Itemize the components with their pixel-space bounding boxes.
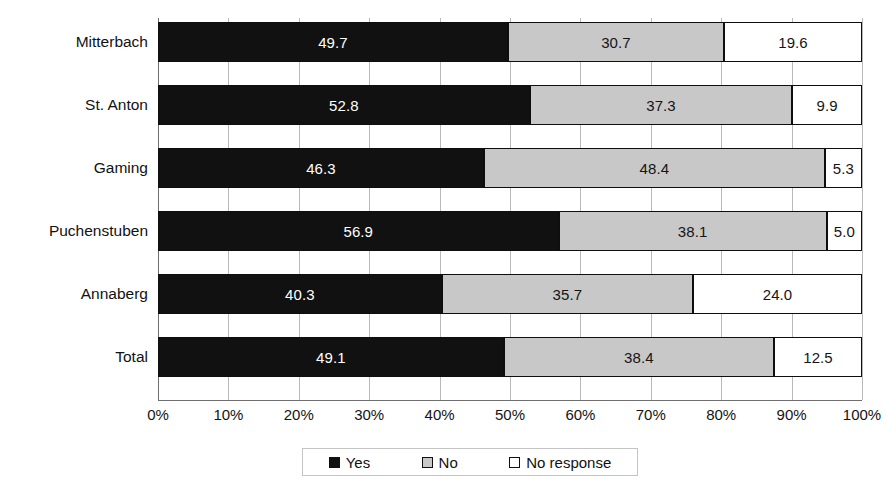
x-tick-label: 10%	[213, 406, 243, 423]
bar-value-label: 30.7	[601, 34, 631, 51]
legend-label: No response	[526, 454, 611, 471]
bar-segment-no: 48.4	[484, 148, 825, 188]
legend-swatch-icon	[422, 457, 433, 468]
legend-label: Yes	[346, 454, 370, 471]
bar-segment-no-response: 5.3	[825, 148, 862, 188]
legend-swatch-icon	[329, 457, 340, 468]
bar-value-label: 19.6	[778, 34, 808, 51]
legend-label: No	[439, 454, 458, 471]
bar-row: 46.348.45.3	[158, 148, 862, 188]
bar-segment-yes: 49.1	[158, 337, 504, 377]
bar-segment-no-response: 19.6	[724, 22, 862, 62]
bar-segment-yes: 46.3	[158, 148, 484, 188]
bar-value-label: 38.4	[624, 349, 654, 366]
plot-area: 49.730.719.652.837.39.946.348.45.356.938…	[158, 18, 862, 400]
bar-segment-yes: 52.8	[158, 85, 530, 125]
bar-segment-no-response: 24.0	[693, 274, 862, 314]
bar-segment-no: 37.3	[530, 85, 793, 125]
x-tick-label: 50%	[495, 406, 525, 423]
x-tick-label: 60%	[565, 406, 595, 423]
x-tick-label: 90%	[777, 406, 807, 423]
legend-swatch-icon	[509, 457, 520, 468]
bar-value-label: 37.3	[646, 97, 676, 114]
category-label: Gaming	[0, 148, 148, 188]
bar-value-label: 24.0	[763, 286, 793, 303]
bar-value-label: 38.1	[678, 223, 708, 240]
bar-segment-no-response: 12.5	[774, 337, 862, 377]
bar-value-label: 40.3	[285, 286, 315, 303]
chart-legend: YesNoNo response	[302, 448, 638, 476]
category-label: St. Anton	[0, 85, 148, 125]
bar-row: 49.138.412.5	[158, 337, 862, 377]
bar-segment-no: 30.7	[508, 22, 724, 62]
bar-value-label: 56.9	[343, 223, 373, 240]
x-axis-line	[158, 400, 862, 401]
stacked-bar-chart: MitterbachSt. AntonGamingPuchenstubenAnn…	[0, 0, 886, 500]
bar-segment-no: 38.1	[559, 211, 827, 251]
x-tick-label: 0%	[147, 406, 169, 423]
bar-value-label: 5.3	[833, 160, 854, 177]
bar-value-label: 9.9	[817, 97, 838, 114]
bar-value-label: 12.5	[803, 349, 833, 366]
bar-segment-yes: 56.9	[158, 211, 559, 251]
category-axis: MitterbachSt. AntonGamingPuchenstubenAnn…	[0, 18, 148, 400]
bar-value-label: 46.3	[306, 160, 336, 177]
bar-row: 52.837.39.9	[158, 85, 862, 125]
bar-value-label: 48.4	[640, 160, 670, 177]
bar-row: 40.335.724.0	[158, 274, 862, 314]
bar-segment-no-response: 9.9	[792, 85, 862, 125]
bar-value-label: 49.7	[318, 34, 348, 51]
bar-segment-yes: 49.7	[158, 22, 508, 62]
bar-value-label: 52.8	[329, 97, 359, 114]
category-label: Puchenstuben	[0, 211, 148, 251]
bar-segment-no-response: 5.0	[827, 211, 862, 251]
category-label: Total	[0, 337, 148, 377]
bar-segment-yes: 40.3	[158, 274, 442, 314]
legend-item-no-response[interactable]: No response	[509, 454, 611, 471]
category-label: Annaberg	[0, 274, 148, 314]
bar-value-label: 49.1	[316, 349, 346, 366]
x-tick-label: 80%	[706, 406, 736, 423]
bar-segment-no: 38.4	[504, 337, 774, 377]
x-tick-label: 100%	[843, 406, 881, 423]
gridline-100	[862, 18, 863, 400]
bar-segment-no: 35.7	[442, 274, 693, 314]
x-tick-label: 70%	[636, 406, 666, 423]
x-tick-label: 40%	[425, 406, 455, 423]
bar-row: 56.938.15.0	[158, 211, 862, 251]
legend-item-no[interactable]: No	[422, 454, 458, 471]
bar-value-label: 35.7	[553, 286, 583, 303]
bar-row: 49.730.719.6	[158, 22, 862, 62]
x-tick-label: 20%	[284, 406, 314, 423]
x-tick-label: 30%	[354, 406, 384, 423]
legend-item-yes[interactable]: Yes	[329, 454, 370, 471]
category-label: Mitterbach	[0, 22, 148, 62]
bar-value-label: 5.0	[834, 223, 855, 240]
